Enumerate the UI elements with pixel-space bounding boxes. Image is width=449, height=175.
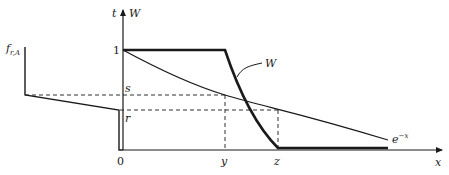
f-rA-label: fr,A — [5, 42, 20, 57]
tick-label-one: 1 — [113, 44, 120, 57]
W-curve-label: W — [265, 57, 278, 70]
origin-label: 0 — [117, 155, 124, 168]
tick-label-r: r — [125, 112, 131, 125]
y-axis-label-W: W — [129, 7, 142, 20]
tick-label-z: z — [273, 155, 280, 168]
y-axis-label-t: t — [112, 7, 117, 20]
diagram-canvas: t W x 0 1 s r y z fr,A W e−x — [0, 0, 449, 175]
f-rA-profile — [25, 47, 123, 150]
exp-decay-curve — [123, 50, 388, 140]
W-leader-line — [237, 63, 262, 77]
x-axis-label: x — [435, 156, 442, 169]
tick-label-y: y — [220, 155, 228, 168]
tick-label-s: s — [125, 82, 131, 95]
f-rA-label-subscript: r,A — [10, 49, 20, 57]
exp-curve-label-sup: −x — [399, 132, 409, 140]
exp-curve-label: e−x — [392, 132, 408, 146]
